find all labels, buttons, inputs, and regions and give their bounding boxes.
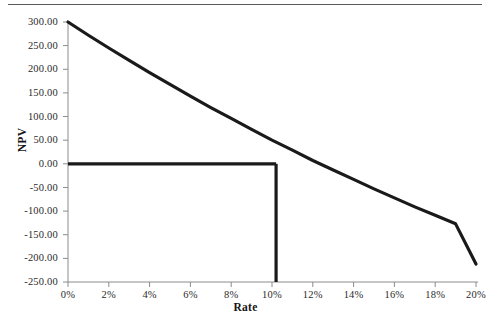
x-tick-label-10: 10% bbox=[252, 289, 292, 300]
x-tick-label-14: 14% bbox=[334, 289, 374, 300]
y-tick-label-neg100: -100.00 bbox=[8, 205, 58, 216]
y-tick-label-150: 150.00 bbox=[8, 87, 58, 98]
x-tick-label-18: 18% bbox=[415, 289, 455, 300]
y-tick-label-200: 200.00 bbox=[8, 63, 58, 74]
y-axis-ticks bbox=[63, 22, 68, 282]
x-tick-label-8: 8% bbox=[211, 289, 251, 300]
x-tick-label-12: 12% bbox=[293, 289, 333, 300]
y-axis-title: NPV bbox=[16, 120, 28, 160]
x-tick-label-6: 6% bbox=[170, 289, 210, 300]
npv-profile-figure: 300.00 250.00 200.00 150.00 100.00 50.00… bbox=[0, 0, 491, 320]
npv-profile-curve bbox=[68, 22, 476, 264]
x-tick-label-0: 0% bbox=[48, 289, 88, 300]
y-tick-label-neg250: -250.00 bbox=[8, 276, 58, 287]
x-tick-label-16: 16% bbox=[374, 289, 414, 300]
y-tick-label-300: 300.00 bbox=[8, 16, 58, 27]
x-axis-title: Rate bbox=[0, 301, 491, 313]
y-tick-label-neg150: -150.00 bbox=[8, 229, 58, 240]
x-tick-label-4: 4% bbox=[130, 289, 170, 300]
x-tick-label-2: 2% bbox=[89, 289, 129, 300]
x-tick-label-20: 20% bbox=[456, 289, 491, 300]
y-tick-label-neg200: -200.00 bbox=[8, 252, 58, 263]
y-tick-label-250: 250.00 bbox=[8, 40, 58, 51]
x-axis-ticks bbox=[68, 282, 476, 287]
chart-plot-area bbox=[0, 0, 491, 320]
y-tick-label-neg50: -50.00 bbox=[8, 182, 58, 193]
